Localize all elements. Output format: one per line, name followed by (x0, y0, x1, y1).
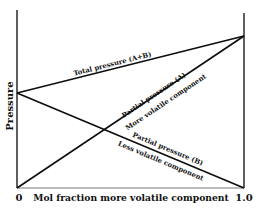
x-axis-label: Mol fraction more volatile component (33, 192, 229, 203)
total-pressure-line (17, 36, 244, 93)
x-tick-0: 0 (16, 192, 23, 203)
y-axis-label: Pressure (4, 81, 15, 130)
total-pressure-label: Total pressure (A+B) (73, 50, 153, 77)
diagram-canvas: Pressure 0 1.0 Mol fraction more volatil… (0, 0, 257, 208)
x-tick-1: 1.0 (235, 192, 252, 203)
